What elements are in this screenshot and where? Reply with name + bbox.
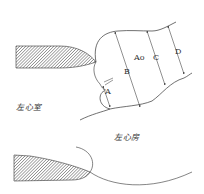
left-atrium-label: 左心房 [114,134,140,142]
left-ventricle-label: 左心室 [16,104,42,112]
aortic-root-diagram: Ao B C D A 左心室 左心房 [0,0,204,194]
lower-septum-shape [14,155,90,181]
aortic-leaflet [94,62,106,90]
leaflet-tip [104,78,113,85]
diagram-drawing [0,0,204,194]
measure-c-label: C [153,54,159,62]
aorta-label: Ao [134,54,145,62]
atrial-wall-curve [76,147,192,185]
measure-b-label: B [124,68,130,76]
measure-d-label: D [175,48,181,56]
measure-a-label: A [105,88,111,96]
upper-septum-shape [16,46,96,68]
